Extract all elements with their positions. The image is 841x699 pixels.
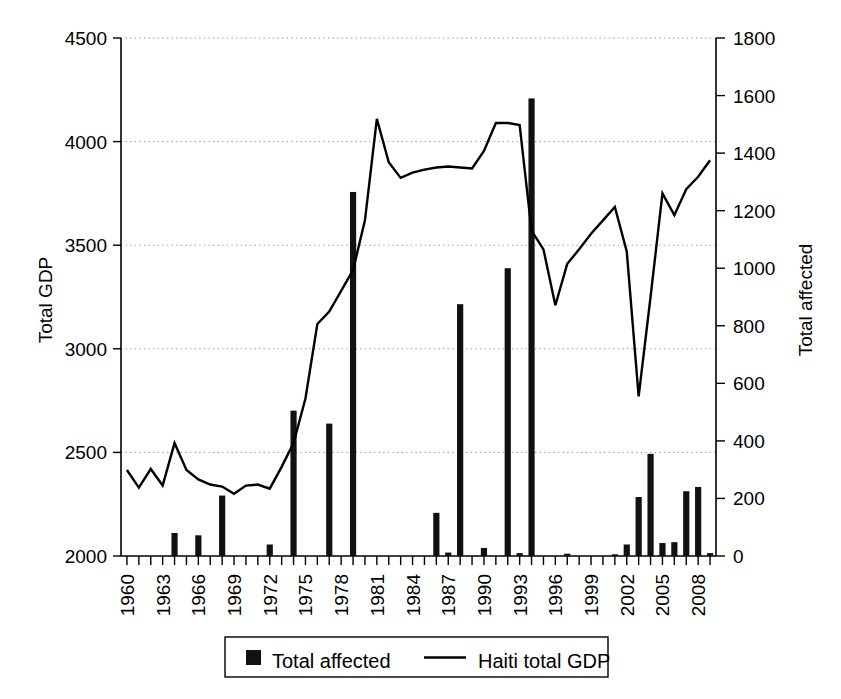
right-axis-tick-label: 0 — [733, 546, 744, 567]
left-axis-title: Total GDP — [35, 257, 56, 344]
chart-container: 200025003000350040004500 020040060080010… — [0, 0, 841, 699]
bar — [636, 497, 642, 556]
bar — [671, 542, 677, 556]
bar — [505, 268, 511, 556]
right-axis-tick-label: 1200 — [733, 201, 775, 222]
right-axis-tick-label: 400 — [733, 431, 765, 452]
legend-label-haiti-total-gdp: Haiti total GDP — [478, 650, 610, 672]
x-axis-tick-label: 1975 — [295, 574, 316, 616]
x-axis-tick-label: 2002 — [617, 574, 638, 616]
right-axis-tick-label: 1800 — [733, 28, 775, 49]
bar — [517, 553, 523, 556]
bar — [457, 304, 463, 556]
right-axis-title: Total affected — [795, 244, 816, 357]
bar — [707, 553, 713, 556]
x-axis-tick-label: 1999 — [581, 574, 602, 616]
right-axis-tick-label: 1000 — [733, 258, 775, 279]
x-axis-tick-label: 2008 — [688, 574, 709, 616]
right-axis-tick-label: 800 — [733, 316, 765, 337]
right-axis-tick-label: 600 — [733, 373, 765, 394]
x-axis-tick-label: 1972 — [260, 574, 281, 616]
x-axis-tick-label: 1966 — [188, 574, 209, 616]
bar — [624, 544, 630, 556]
bar — [612, 554, 618, 556]
left-axis-tick-label: 4500 — [65, 28, 107, 49]
x-axis-tick-label: 1990 — [474, 574, 495, 616]
x-axis-tick-label: 1996 — [545, 574, 566, 616]
bar — [219, 496, 225, 556]
right-axis-ticks — [716, 38, 725, 556]
x-axis-tick-label: 1960 — [117, 574, 138, 616]
right-axis-tick-label: 1400 — [733, 143, 775, 164]
x-axis-tick-label: 1981 — [367, 574, 388, 616]
grid-lines — [121, 38, 716, 452]
right-axis-tick-label: 1600 — [733, 86, 775, 107]
x-axis-tick-label: 1963 — [153, 574, 174, 616]
legend-label-total-affected: Total affected — [272, 650, 391, 672]
bar — [647, 454, 653, 556]
bar — [695, 487, 701, 556]
x-axis-tick-label: 2005 — [652, 574, 673, 616]
x-axis-tick-label: 1984 — [403, 574, 424, 617]
line-series-haiti-total-gdp — [127, 119, 710, 494]
left-axis-tick-label: 2000 — [65, 546, 107, 567]
bar — [326, 424, 332, 556]
x-axis-tick-labels: 1960196319661969197219751978198119841987… — [117, 574, 709, 617]
x-axis-tick-label: 1969 — [224, 574, 245, 616]
bar — [445, 553, 451, 556]
chart-legend: Total affected Haiti total GDP — [225, 637, 610, 677]
bar — [433, 513, 439, 556]
bar — [350, 192, 356, 556]
right-axis-tick-labels: 020040060080010001200140016001800 — [733, 28, 775, 567]
bar — [564, 554, 570, 556]
x-axis-tick-label: 1978 — [331, 574, 352, 616]
bar — [683, 491, 689, 556]
bar — [659, 543, 665, 556]
left-axis-tick-label: 4000 — [65, 132, 107, 153]
x-axis-ticks — [127, 556, 710, 565]
right-axis-tick-label: 200 — [733, 488, 765, 509]
left-axis-ticks — [113, 38, 121, 556]
bar — [267, 544, 273, 556]
x-axis-tick-label: 1993 — [510, 574, 531, 616]
bar — [481, 548, 487, 556]
left-axis-tick-label: 3500 — [65, 235, 107, 256]
left-axis-tick-label: 2500 — [65, 442, 107, 463]
x-axis-tick-label: 1987 — [438, 574, 459, 616]
bar — [195, 535, 201, 556]
left-axis-tick-label: 3000 — [65, 339, 107, 360]
left-axis-tick-labels: 200025003000350040004500 — [65, 28, 107, 567]
bar — [171, 533, 177, 556]
dual-axis-chart: 200025003000350040004500 020040060080010… — [0, 0, 841, 699]
bar — [528, 98, 534, 556]
legend-swatch-total-affected-icon — [246, 650, 261, 665]
